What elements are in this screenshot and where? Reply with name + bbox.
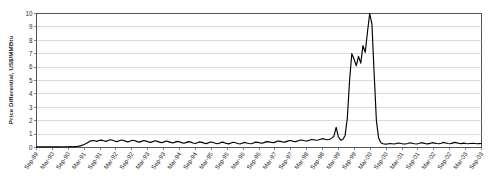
x-tick-label: Sep-01	[404, 150, 421, 171]
x-axis-ticks: Sep-89Mar-90Sep-90Mar-91Sep-91Mar-92Sep-…	[22, 148, 484, 171]
y-tick-label: 8	[29, 37, 33, 44]
x-tick-label: Sep-00	[372, 150, 389, 171]
x-tick-label: Sep-95	[213, 150, 230, 171]
x-tick-label: Sep-93	[149, 150, 166, 171]
y-tick-label: 2	[29, 117, 33, 124]
x-tick-label: Mar-91	[70, 150, 87, 170]
x-tick-label: Mar-99	[324, 150, 341, 170]
y-tick-label: 6	[29, 63, 33, 70]
x-tick-label: Sep-03	[467, 150, 484, 171]
x-tick-label: Mar-95	[197, 150, 214, 170]
x-tick-label: Sep-89	[22, 150, 39, 171]
x-tick-label: Sep-97	[277, 150, 294, 171]
x-tick-label: Mar-01	[388, 150, 405, 170]
x-tick-label: Mar-90	[38, 150, 55, 170]
y-tick-label: 4	[29, 90, 33, 97]
y-tick-label: 9	[29, 23, 33, 30]
y-tick-label: 10	[25, 10, 33, 17]
y-axis-ticks: 012345678910	[25, 10, 36, 151]
x-tick-label: Sep-94	[181, 150, 198, 171]
x-tick-label: Mar-92	[102, 150, 119, 170]
x-tick-label: Mar-03	[452, 150, 469, 170]
x-tick-label: Mar-97	[261, 150, 278, 170]
x-tick-label: Sep-90	[54, 150, 71, 171]
chart-canvas: 012345678910 Sep-89Mar-90Sep-90Mar-91Sep…	[0, 0, 498, 188]
y-axis-title: Price Differential, US$/MMBtu	[7, 36, 14, 125]
x-tick-label: Mar-98	[293, 150, 310, 170]
x-tick-label: Mar-93	[134, 150, 151, 170]
x-tick-label: Mar-96	[229, 150, 246, 170]
x-tick-label: Mar-94	[166, 150, 183, 170]
x-tick-label: Sep-02	[436, 150, 453, 171]
y-tick-label: 5	[29, 77, 33, 84]
y-tick-label: 0	[29, 144, 33, 151]
x-tick-label: Sep-91	[86, 150, 103, 171]
y-tick-label: 3	[29, 104, 33, 111]
x-tick-label: Sep-92	[118, 150, 135, 171]
y-tick-label: 1	[29, 130, 33, 137]
x-tick-label: Sep-98	[308, 150, 325, 171]
x-tick-label: Mar-02	[420, 150, 437, 170]
x-tick-label: Sep-99	[340, 150, 357, 171]
x-tick-label: Mar-00	[356, 150, 373, 170]
y-tick-label: 7	[29, 50, 33, 57]
x-tick-label: Sep-96	[245, 150, 262, 171]
price-differential-line-chart: 012345678910 Sep-89Mar-90Sep-90Mar-91Sep…	[0, 0, 498, 188]
